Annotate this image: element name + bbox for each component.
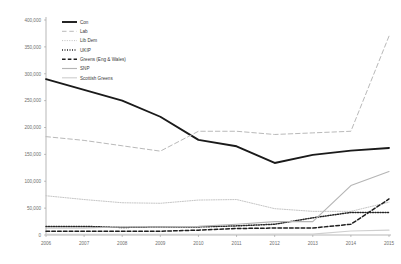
legend-label: Lab	[80, 29, 88, 34]
legend-label: SNP	[80, 66, 89, 71]
legend-label: UKIP	[80, 48, 91, 53]
x-tick-label: 2006	[41, 241, 52, 246]
legend-item-scottish-greens[interactable]: Scottish Greens	[62, 76, 113, 81]
y-axis-tick-labels: 050,000100,000150,000200,000250,000300,0…	[24, 18, 46, 238]
axes	[46, 17, 391, 235]
series-line-con	[46, 79, 389, 163]
x-tick-label: 2014	[346, 241, 357, 246]
y-tick-label: 50,000	[27, 206, 41, 211]
x-axis-tick-labels: 2006200720082009201020112012201320142015	[41, 235, 395, 246]
legend-item-ukip[interactable]: UKIP	[62, 48, 91, 53]
chart-canvas: 050,000100,000150,000200,000250,000300,0…	[0, 0, 401, 264]
x-tick-label: 2015	[384, 241, 395, 246]
x-tick-label: 2007	[79, 241, 90, 246]
y-tick-label: 100,000	[24, 179, 41, 184]
chart-legend: ConLabLib DemUKIPGreens (Eng & Wales)SNP…	[62, 20, 126, 81]
line-chart-figure: 050,000100,000150,000200,000250,000300,0…	[0, 0, 401, 264]
x-tick-label: 2008	[117, 241, 128, 246]
y-tick-label: 200,000	[24, 125, 41, 130]
legend-label: Con	[80, 20, 89, 25]
legend-label: Lib Dem	[80, 38, 97, 43]
y-tick-label: 0	[38, 233, 41, 238]
x-tick-label: 2012	[270, 241, 281, 246]
legend-item-greens-eng-wales[interactable]: Greens (Eng & Wales)	[62, 57, 126, 62]
legend-label: Greens (Eng & Wales)	[80, 57, 126, 62]
legend-item-con[interactable]: Con	[62, 20, 89, 25]
legend-label: Scottish Greens	[80, 76, 113, 81]
x-tick-label: 2011	[232, 241, 242, 246]
y-tick-label: 300,000	[24, 72, 41, 77]
series-line-scottish-greens	[46, 230, 389, 234]
x-tick-label: 2013	[308, 241, 319, 246]
y-tick-label: 150,000	[24, 152, 41, 157]
y-tick-label: 250,000	[24, 98, 41, 103]
legend-item-lab[interactable]: Lab	[62, 29, 88, 34]
x-tick-label: 2009	[155, 241, 166, 246]
x-tick-label: 2010	[193, 241, 204, 246]
legend-item-lib-dem[interactable]: Lib Dem	[62, 38, 97, 43]
legend-item-snp[interactable]: SNP	[62, 66, 89, 71]
y-tick-label: 350,000	[24, 45, 41, 50]
y-tick-label: 400,000	[24, 18, 41, 23]
series-lines	[46, 36, 389, 234]
